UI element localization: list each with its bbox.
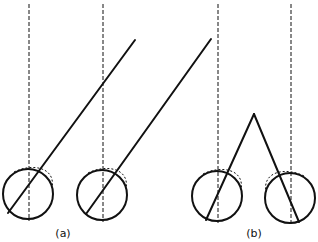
panel-a-label: (a) <box>55 227 70 240</box>
panel-b-converging-gaze <box>192 4 315 225</box>
line-of-sight <box>206 114 254 220</box>
line-of-sight <box>8 40 135 213</box>
panel-b-label: (b) <box>246 227 262 240</box>
diagram-canvas <box>0 0 318 242</box>
panel-a-parallel-gaze <box>3 4 211 222</box>
eyeball-circle <box>3 169 53 219</box>
eyeball-circle <box>77 170 127 220</box>
line-of-sight <box>254 114 299 222</box>
line-of-sight <box>86 39 211 214</box>
